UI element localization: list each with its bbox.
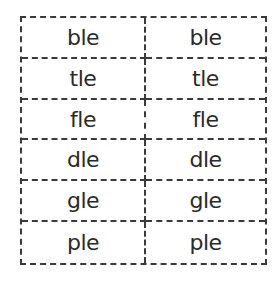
word-card: tle xyxy=(146,59,265,100)
word-card: ble xyxy=(146,18,265,59)
word-card: dle xyxy=(22,140,146,181)
word-card: ple xyxy=(22,222,146,263)
word-card: tle xyxy=(22,59,146,100)
word-card: fle xyxy=(146,100,265,141)
word-card: ble xyxy=(22,18,146,59)
word-card-grid: ble ble tle tle fle fle dle dle gle gle … xyxy=(20,16,267,265)
word-card: gle xyxy=(146,181,265,222)
word-card: gle xyxy=(22,181,146,222)
word-card: ple xyxy=(146,222,265,263)
word-card: dle xyxy=(146,140,265,181)
word-card: fle xyxy=(22,100,146,141)
